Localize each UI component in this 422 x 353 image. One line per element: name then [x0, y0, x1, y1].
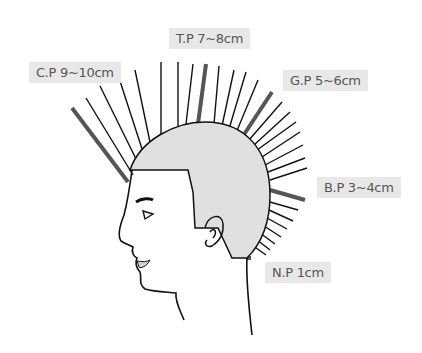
label-gp: G.P 5~6cm: [283, 70, 368, 91]
label-np: N.P 1cm: [265, 262, 331, 283]
lips: [137, 260, 150, 268]
eyebrow: [136, 199, 153, 202]
eye: [143, 211, 153, 219]
face-outline: [119, 170, 184, 320]
guide-tp: [198, 64, 206, 124]
guide-cp: [72, 108, 128, 182]
back-neck: [247, 258, 252, 335]
label-tp: T.P 7~8cm: [169, 28, 250, 49]
label-bp: B.P 3~4cm: [317, 177, 401, 198]
guide-bp: [270, 190, 305, 200]
label-cp: C.P 9~10cm: [29, 62, 121, 83]
hair-area: [130, 122, 270, 258]
